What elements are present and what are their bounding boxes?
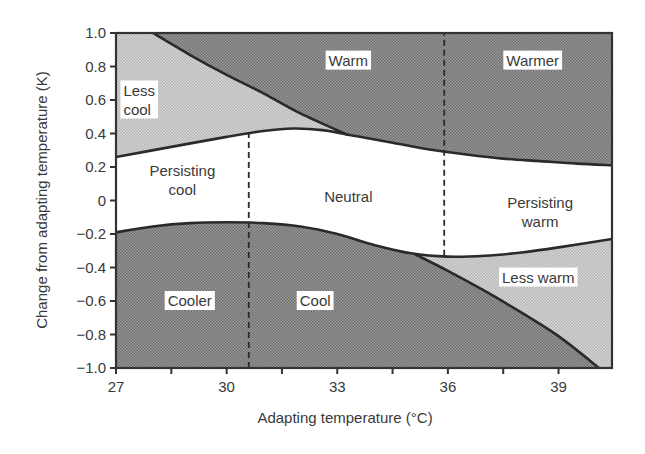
region-label-text: Less warm [502, 269, 575, 286]
region-label-text: cool [123, 101, 151, 118]
x-tick-label: 27 [108, 378, 125, 395]
region-label-warmer: Warmer [503, 51, 562, 70]
y-tick-label: 0 [98, 192, 106, 209]
region-label-cooler: Cooler [165, 291, 215, 310]
region-label-text: Persisting [507, 194, 573, 211]
region-label-less-cool: Lesscool [120, 81, 158, 119]
region-label-less-warm: Less warm [499, 268, 578, 287]
region-label-neutral: Neutral [324, 188, 372, 205]
region-label-text: Warmer [506, 52, 559, 69]
y-tick-label: 0.4 [85, 125, 106, 142]
y-tick-label: −0.6 [76, 292, 106, 309]
region-label-text: Warm [329, 52, 368, 69]
x-tick-label: 39 [550, 378, 567, 395]
region-label-text: Cooler [168, 292, 212, 309]
y-tick-label: 1.0 [85, 24, 106, 41]
region-label-text: Persisting [149, 162, 215, 179]
region-label-text: Less [123, 82, 155, 99]
y-tick-label: 0.2 [85, 158, 106, 175]
y-tick-label: 0.8 [85, 58, 106, 75]
region-label-cool: Cool [297, 291, 334, 310]
x-tick-label: 36 [440, 378, 457, 395]
region-label-persisting-warm: Persistingwarm [507, 194, 573, 230]
y-tick-label: −0.2 [76, 225, 106, 242]
y-tick-label: −0.8 [76, 326, 106, 343]
region-label-text: Cool [300, 292, 331, 309]
y-axis-title: Change from adapting temperature (K) [33, 71, 50, 329]
region-label-text: warm [521, 213, 559, 230]
x-tick-label: 33 [329, 378, 346, 395]
y-tick-label: −0.4 [76, 259, 106, 276]
region-label-text: Neutral [324, 188, 372, 205]
x-tick-label: 30 [218, 378, 235, 395]
y-tick-label: 0.6 [85, 91, 106, 108]
region-label-persisting-cool: Persistingcool [149, 162, 215, 198]
region-label-warm: Warm [326, 51, 371, 70]
chart-svg: WarmWarmerLesscoolPersistingcoolNeutralP… [0, 0, 645, 454]
x-axis-title: Adapting temperature (°C) [257, 409, 432, 426]
region-label-text: cool [169, 181, 197, 198]
y-tick-label: −1.0 [76, 359, 106, 376]
